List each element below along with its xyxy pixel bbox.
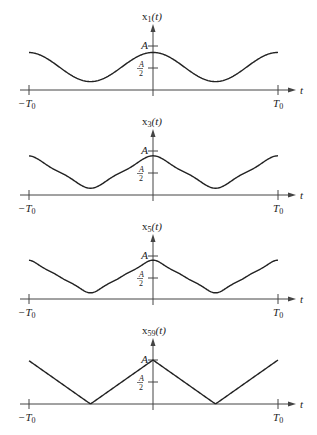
t-axis-label: t [300, 293, 304, 305]
panel-x3: x3(t)AA2t−T0T0 [18, 115, 304, 216]
half-a-denominator: 2 [139, 383, 143, 392]
panel-title: x1(t) [142, 10, 162, 24]
y-axis-arrow-icon [151, 338, 156, 346]
panel-title: x59(t) [142, 324, 166, 338]
t-axis-label: t [300, 84, 304, 96]
a-label: A [140, 39, 148, 51]
y-axis-arrow-icon [151, 234, 156, 242]
neg-t0-label: −T0 [18, 202, 36, 216]
panel-title: x5(t) [142, 220, 162, 234]
half-a-numerator: A [138, 165, 144, 174]
a-label: A [140, 144, 148, 156]
a-label: A [140, 353, 148, 365]
t0-label: T0 [273, 202, 283, 216]
fourier-triangle-figure: x1(t)AA2t−T0T0x3(t)AA2t−T0T0x5(t)AA2t−T0… [0, 0, 317, 435]
t0-label: T0 [273, 306, 283, 320]
half-a-denominator: 2 [139, 279, 143, 288]
a-label: A [140, 249, 148, 261]
panel-title: x3(t) [142, 115, 162, 129]
panel-x1: x1(t)AA2t−T0T0 [18, 10, 304, 111]
half-a-denominator: 2 [139, 174, 143, 183]
t-axis-arrow-icon [288, 193, 296, 198]
panel-x5: x5(t)AA2t−T0T0 [18, 220, 304, 320]
t-axis-arrow-icon [288, 402, 296, 407]
t-axis-label: t [300, 189, 304, 201]
t-axis-label: t [300, 398, 304, 410]
half-a-numerator: A [138, 60, 144, 69]
half-a-denominator: 2 [139, 69, 143, 78]
half-a-numerator: A [138, 270, 144, 279]
panel-x59: x59(t)AA2t−T0T0 [18, 324, 304, 425]
t0-label: T0 [273, 411, 283, 425]
neg-t0-label: −T0 [18, 306, 36, 320]
t-axis-arrow-icon [288, 88, 296, 93]
t0-label: T0 [273, 97, 283, 111]
y-axis-arrow-icon [151, 129, 156, 137]
half-a-numerator: A [138, 374, 144, 383]
neg-t0-label: −T0 [18, 97, 36, 111]
t-axis-arrow-icon [288, 297, 296, 302]
y-axis-arrow-icon [151, 24, 156, 32]
neg-t0-label: −T0 [18, 411, 36, 425]
